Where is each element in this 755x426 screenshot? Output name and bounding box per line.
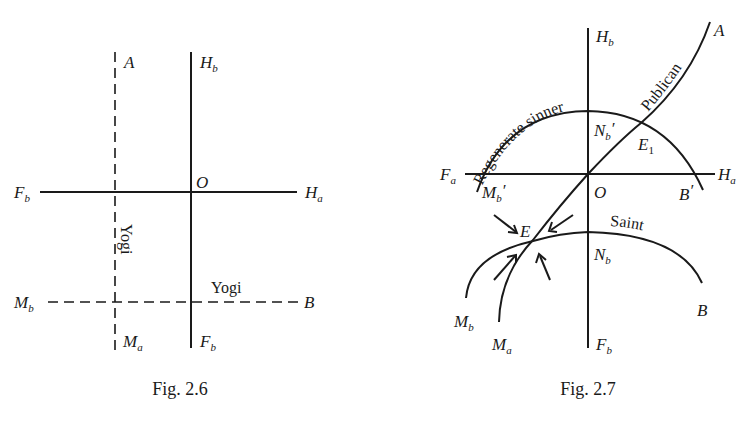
figure-2-6: A Hb O Fb Ha Yogi Yogi Mb B Ma Fb Fig. 2… [13,52,323,399]
label-a: A [123,53,135,72]
label-fb-left: Fb [13,183,30,204]
label-e1: E1 [637,135,654,156]
saint-label: Saint [610,212,646,234]
equilibrium-arrows [494,215,573,280]
label-ma: Ma [491,335,512,356]
label-fb: Fb [595,335,612,356]
label-e: E [519,222,531,241]
label-b: B [304,293,315,312]
label-nb-prime: Nb′ [593,119,615,142]
label-fb-bottom: Fb [199,332,216,353]
label-nb: Nb [593,245,611,266]
label-o: O [594,183,606,202]
label-ha: Ha [304,183,323,204]
label-a: A [713,21,725,40]
yogi-horizontal-label: Yogi [211,279,242,297]
yogi-vertical-label: Yogi [117,224,135,255]
label-mb: Mb [453,312,474,333]
label-b-prime: B′ [679,181,693,204]
caption-fig-2-6: Fig. 2.6 [152,379,208,399]
caption-fig-2-7: Fig. 2.7 [560,379,616,399]
label-ma: Ma [122,332,143,353]
label-fa: Fa [439,165,456,186]
figure-2-7: Regenerate sinner Publican Saint Hb A Nb… [439,21,736,399]
saint-curve [466,232,702,298]
publican-label: Publican [637,60,684,114]
regenerate-sinner-curve [477,111,703,192]
label-mb: Mb [13,293,34,314]
label-hb: Hb [595,27,614,48]
label-hb: Hb [199,53,218,74]
label-o: O [196,173,208,192]
label-ha: Ha [717,165,736,186]
label-mb-prime: Mb′ [481,181,506,204]
diagram-canvas: A Hb O Fb Ha Yogi Yogi Mb B Ma Fb Fig. 2… [0,0,755,426]
label-b: B [697,301,708,320]
